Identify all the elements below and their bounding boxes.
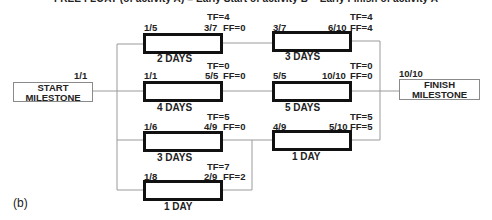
activity-3-duration: 4 DAYS	[157, 103, 192, 113]
activity-4-early-finish: 10/10	[322, 71, 346, 81]
activity-2-box	[272, 31, 352, 52]
activity-1-box	[143, 33, 223, 54]
activity-3-early-start: 1/1	[144, 71, 157, 81]
figure-label: (b)	[13, 196, 28, 210]
activity-4-free-float: FF=0	[350, 71, 372, 81]
activity-6-free-float: FF=5	[350, 122, 372, 132]
activity-7-duration: 1 DAY	[164, 202, 193, 212]
activity-5-duration: 3 DAYS	[157, 153, 192, 163]
activity-6-duration: 1 DAY	[292, 152, 321, 162]
activity-1-duration: 2 DAYS	[157, 54, 192, 64]
activity-5-free-float: FF=0	[223, 122, 245, 132]
finish-milestone-date: 10/10	[399, 69, 423, 79]
finish-milestone-line2: MILESTONE	[400, 90, 479, 100]
finish-milestone: FINISH MILESTONE	[399, 79, 480, 100]
activity-5-box	[143, 131, 223, 152]
activity-1-early-start: 1/5	[144, 23, 157, 33]
activity-3-box	[143, 81, 223, 102]
activity-1-early-finish: 3/7	[204, 23, 217, 33]
start-milestone: START MILESTONE	[13, 82, 93, 102]
network-connectors	[0, 0, 492, 220]
activity-3-free-float: FF=0	[223, 71, 245, 81]
activity-1-free-float: FF=0	[223, 23, 245, 33]
activity-1-total-float: TF=4	[207, 12, 229, 22]
start-milestone-date: 1/1	[74, 71, 87, 81]
activity-7-box	[143, 180, 223, 201]
activity-2-duration: 3 DAYS	[285, 52, 320, 62]
activity-4-early-start: 5/5	[273, 71, 286, 81]
activity-7-free-float: FF=2	[223, 172, 245, 182]
activity-6-box	[272, 130, 352, 151]
activity-2-free-float: FF=4	[350, 23, 372, 33]
activity-2-total-float: TF=4	[350, 12, 372, 22]
start-milestone-line2: MILESTONE	[14, 93, 92, 103]
activity-4-box	[272, 81, 352, 102]
activity-3-early-finish: 5/5	[205, 71, 218, 81]
activity-4-duration: 5 DAYS	[285, 103, 320, 113]
